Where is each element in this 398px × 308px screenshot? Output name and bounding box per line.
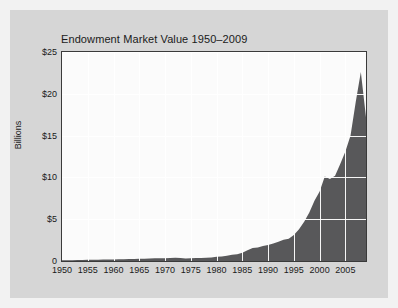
y-axis-label: Billions [13, 105, 23, 165]
x-tick-label: 2000 [310, 265, 330, 275]
x-tick-label: 1975 [181, 265, 201, 275]
figure-card: Endowment Market Value 1950–2009 Billion… [10, 10, 388, 298]
y-tick-label: $5 [47, 214, 57, 224]
x-tick-label: 1950 [52, 265, 72, 275]
chart-title: Endowment Market Value 1950–2009 [61, 33, 247, 45]
x-tick-label: 1970 [155, 265, 175, 275]
y-tick-label: $10 [42, 172, 57, 182]
x-tick-label: 1995 [284, 265, 304, 275]
x-tick-label: 1990 [258, 265, 278, 275]
axis-ticks: 0$5$10$15$20$251950195519601965197019751… [61, 51, 367, 262]
y-tick-label: $25 [42, 47, 57, 57]
x-tick-label: 1955 [78, 265, 98, 275]
x-tick-label: 1980 [207, 265, 227, 275]
y-tick-label: $15 [42, 131, 57, 141]
x-tick-label: 1985 [232, 265, 252, 275]
x-tick-label: 1965 [129, 265, 149, 275]
y-tick-label: $20 [42, 89, 57, 99]
x-tick-label: 2005 [335, 265, 355, 275]
x-tick-label: 1960 [104, 265, 124, 275]
